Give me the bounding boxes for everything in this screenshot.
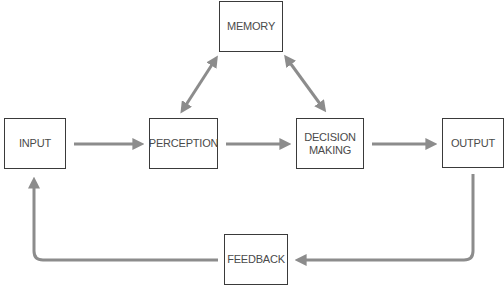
node-feedback: FEEDBACK — [224, 234, 288, 285]
node-output: OUTPUT — [442, 118, 504, 168]
node-input-label: INPUT — [19, 137, 51, 150]
arrow-memory-decision — [288, 60, 323, 108]
node-feedback-label: FEEDBACK — [227, 253, 285, 266]
node-input: INPUT — [4, 118, 66, 169]
node-decision-label-line1: DECISION — [304, 131, 356, 144]
node-decision-label-line2: MAKING — [309, 144, 351, 157]
node-perception: PERCEPTION — [149, 118, 218, 169]
arrow-output-to-feedback — [300, 174, 473, 260]
node-memory: MEMORY — [219, 1, 283, 52]
node-decision-making: DECISION MAKING — [296, 118, 364, 169]
arrow-perception-memory — [184, 60, 215, 108]
node-memory-label: MEMORY — [227, 20, 275, 33]
node-output-label: OUTPUT — [451, 137, 495, 150]
arrow-feedback-to-input — [34, 182, 218, 260]
node-perception-label: PERCEPTION — [149, 137, 219, 150]
